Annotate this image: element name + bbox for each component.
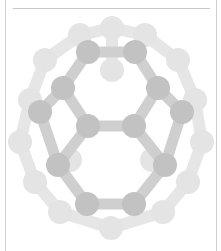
back-atom [33,48,57,72]
back-atom [151,200,175,224]
fullerene-molecule-figure [0,0,221,251]
front-atom [122,114,146,138]
back-atom [100,58,124,82]
back-atom [100,16,124,40]
front-atom [153,153,177,177]
front-atom [28,100,52,124]
back-atom [8,130,32,154]
back-atom [190,130,214,154]
back-atom [166,48,190,72]
front-atom [170,100,194,124]
front-atom [122,192,146,216]
front-atom [76,40,100,64]
back-atom [23,170,47,194]
front-atom [51,76,75,100]
back-atom [176,170,200,194]
front-atom [75,192,99,216]
front-atom [46,153,70,177]
front-atom [123,40,147,64]
front-atom [146,76,170,100]
back-atom [99,216,123,240]
front-atom [76,114,100,138]
back-atom [48,200,72,224]
molecule-svg [0,0,221,251]
